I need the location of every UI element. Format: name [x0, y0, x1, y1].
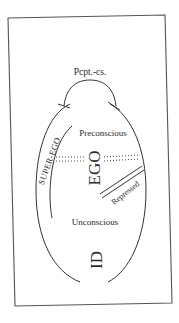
dotted-boundary-right-2: [104, 159, 140, 161]
label-unconscious: Unconscious: [72, 217, 119, 227]
diagram-canvas: Pcpt.-cs. Preconscious SUPER-EGO EGO Rep…: [0, 0, 179, 323]
label-superego: SUPER-EGO: [36, 136, 62, 186]
label-repressed: Repressed: [110, 179, 141, 206]
psyche-outline-left: [36, 104, 80, 282]
label-ego: EGO: [85, 151, 104, 186]
dotted-boundary-right-1: [104, 155, 140, 157]
label-preconscious: Preconscious: [79, 128, 127, 138]
label-id: ID: [87, 251, 106, 269]
label-perception: Pcpt.-cs.: [74, 67, 107, 77]
